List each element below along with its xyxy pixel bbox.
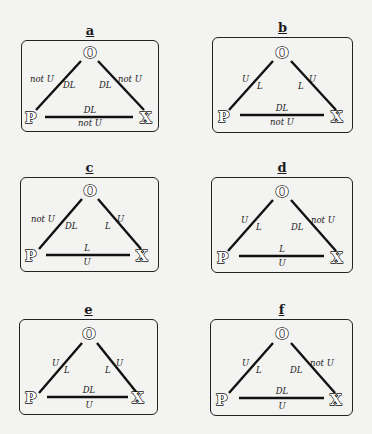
po-outer-label: U bbox=[242, 358, 250, 368]
node-x: X bbox=[331, 108, 343, 126]
ox-outer-label: U bbox=[116, 358, 124, 368]
node-o: O bbox=[83, 44, 96, 62]
panel-c: c O P X not U DL L U L U bbox=[20, 177, 159, 272]
panel-title: d bbox=[211, 160, 353, 175]
node-x: X bbox=[136, 247, 148, 265]
po-outer-label: U bbox=[242, 74, 250, 84]
node-x: X bbox=[331, 249, 343, 267]
node-p: P bbox=[25, 247, 36, 265]
ox-inner-label: L bbox=[104, 221, 111, 231]
ox-inner-label: DL bbox=[98, 80, 112, 90]
triangle-diagram: O P X U L L U DL not U bbox=[212, 37, 353, 133]
triangle-diagram: O P X not U DL DL not U DL not U bbox=[21, 40, 159, 132]
ox-outer-label: U bbox=[309, 74, 317, 84]
px-below-label: U bbox=[278, 258, 286, 268]
panel-b: b O P X U L L U DL not U bbox=[212, 37, 353, 133]
po-inner-label: L bbox=[255, 222, 262, 232]
panel-title: c bbox=[20, 160, 159, 175]
po-inner-label: L bbox=[255, 365, 262, 375]
po-inner-label: DL bbox=[64, 221, 78, 231]
px-above-label: DL bbox=[82, 385, 96, 395]
node-o: O bbox=[275, 325, 288, 343]
po-outer-label: U bbox=[52, 358, 60, 368]
panel-f: f O P X U L DL not U DL U bbox=[210, 319, 353, 416]
node-p: P bbox=[216, 391, 227, 409]
ox-inner-label: DL bbox=[289, 365, 303, 375]
px-above-label: L bbox=[278, 244, 285, 254]
panel-title: a bbox=[21, 23, 159, 38]
po-inner-label: DL bbox=[62, 80, 76, 90]
ox-inner-label: L bbox=[297, 81, 304, 91]
ox-inner-label: L bbox=[104, 365, 111, 375]
px-above-label: DL bbox=[275, 386, 289, 396]
node-o: O bbox=[83, 182, 96, 200]
node-x: X bbox=[132, 389, 144, 407]
po-outer-label: not U bbox=[30, 74, 55, 84]
ox-outer-label: not U bbox=[118, 74, 143, 84]
px-below-label: U bbox=[278, 401, 286, 411]
panel-e: e O P X U L L U DL U bbox=[19, 319, 158, 415]
panel-a: a O P X not U DL DL not U DL not U bbox=[21, 40, 159, 132]
po-outer-label: U bbox=[241, 215, 249, 225]
px-below-label: not U bbox=[270, 117, 295, 127]
panel-title: e bbox=[19, 302, 158, 317]
triangle-diagram: O P X U L L U DL U bbox=[19, 319, 158, 415]
node-p: P bbox=[218, 108, 229, 126]
px-above-label: L bbox=[83, 243, 90, 253]
node-o: O bbox=[82, 325, 95, 343]
node-o: O bbox=[275, 183, 288, 201]
px-below-label: U bbox=[83, 257, 91, 267]
ox-outer-label: not U bbox=[310, 358, 335, 368]
triangle-diagram: O P X U L DL not U L U bbox=[211, 177, 353, 273]
px-above-label: DL bbox=[83, 105, 97, 115]
panel-title: f bbox=[210, 302, 353, 317]
node-x: X bbox=[330, 391, 342, 409]
panel-d: d O P X U L DL not U L U bbox=[211, 177, 353, 273]
node-o: O bbox=[275, 44, 288, 62]
node-x: X bbox=[140, 109, 152, 127]
ox-inner-label: DL bbox=[290, 222, 304, 232]
panel-title: b bbox=[212, 20, 353, 35]
node-p: P bbox=[25, 109, 36, 127]
ox-outer-label: not U bbox=[311, 215, 336, 225]
po-inner-label: L bbox=[256, 81, 263, 91]
po-inner-label: L bbox=[63, 365, 70, 375]
ox-outer-label: U bbox=[117, 214, 125, 224]
triangle-diagram: O P X U L DL not U DL U bbox=[210, 319, 353, 416]
px-above-label: DL bbox=[275, 103, 289, 113]
po-outer-label: not U bbox=[31, 214, 56, 224]
px-below-label: U bbox=[85, 400, 93, 410]
triangle-diagram: O P X not U DL L U L U bbox=[20, 177, 159, 272]
node-p: P bbox=[25, 389, 36, 407]
node-p: P bbox=[217, 249, 228, 267]
px-below-label: not U bbox=[78, 118, 103, 128]
